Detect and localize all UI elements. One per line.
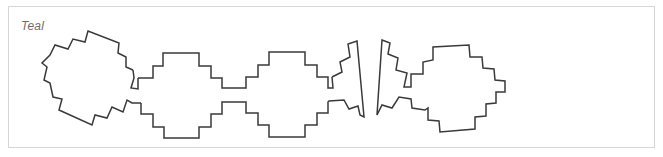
stepped-blob-2 [138, 52, 333, 88]
stepped-blob-1 [42, 31, 141, 125]
stepped-outline-figure [0, 0, 663, 157]
stepped-blob-1-notch [131, 70, 138, 89]
stepped-blob-2-bottom [141, 41, 364, 138]
stepped-blob-5 [377, 40, 505, 132]
